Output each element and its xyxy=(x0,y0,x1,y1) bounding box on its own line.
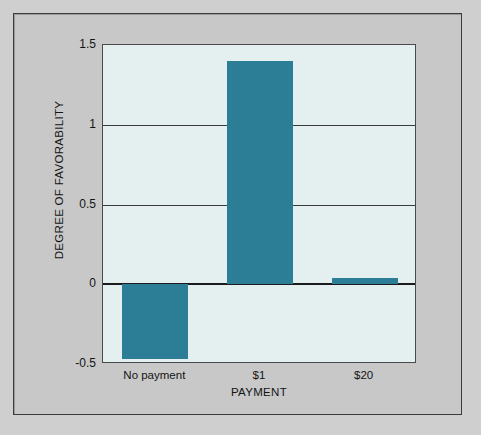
y-axis-title: DEGREE OF FAVORABILITY xyxy=(53,40,65,320)
bar xyxy=(122,284,188,359)
x-axis-title: PAYMENT xyxy=(102,386,416,398)
x-axis-tick-labels: No payment $1 $20 xyxy=(102,369,416,385)
figure-frame: 1.5 1 0.5 0 -0.5 No payment $1 $20 PAYME… xyxy=(13,13,462,415)
x-tick-label: $1 xyxy=(253,369,266,381)
x-tick-label: No payment xyxy=(123,369,185,381)
plot-area xyxy=(102,44,416,363)
bar xyxy=(227,61,293,284)
bar xyxy=(332,278,398,284)
bars-layer xyxy=(103,45,415,362)
x-tick-label: $20 xyxy=(354,369,373,381)
y-tick-label: -0.5 xyxy=(56,357,96,369)
